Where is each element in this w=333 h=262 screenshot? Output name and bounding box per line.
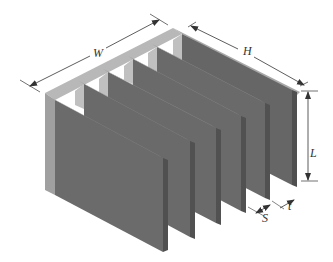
dimension-s: S	[248, 205, 270, 225]
fins	[50, 34, 297, 252]
label-s: S	[262, 211, 268, 225]
label-l: L	[309, 146, 317, 160]
heat-sink-diagram: W H L t S	[0, 0, 333, 262]
dimension-l: L	[301, 91, 318, 181]
label-h: H	[242, 44, 253, 58]
label-w: W	[93, 46, 104, 60]
dimension-t: t	[272, 199, 294, 213]
